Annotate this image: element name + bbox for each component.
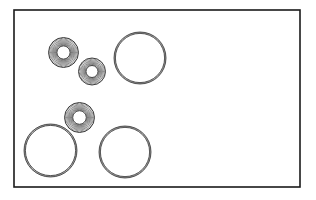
figure-root <box>0 0 316 200</box>
hatched-annulus <box>79 58 106 85</box>
figure-canvas <box>0 0 316 200</box>
plain-circle <box>24 124 77 177</box>
plain-circle <box>114 32 166 84</box>
hatched-annulus <box>49 38 79 68</box>
hatched-annulus <box>65 103 95 133</box>
plain-circle <box>99 126 151 178</box>
